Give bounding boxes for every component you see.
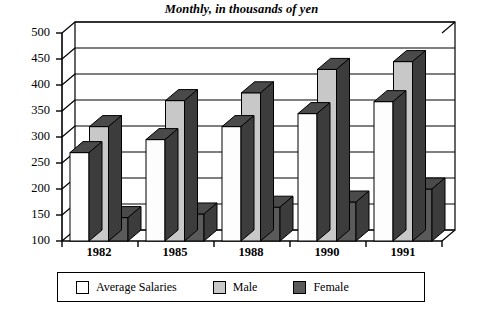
legend-label: Male	[233, 280, 258, 295]
chart-container: Monthly, in thousands of yen 10015020025…	[0, 0, 483, 313]
x-axis-tick-1988: 1988	[227, 245, 275, 260]
legend-label: Average Salaries	[96, 280, 177, 295]
y-axis-tick-400: 400	[16, 78, 50, 90]
legend-item-average-salaries[interactable]: Average Salaries	[76, 280, 177, 295]
legend-swatch-icon	[213, 281, 226, 294]
y-axis-tick-300: 300	[16, 130, 50, 142]
legend-item-female[interactable]: Female	[293, 280, 348, 295]
x-axis-tick-1985: 1985	[151, 245, 199, 260]
y-axis-tick-250: 250	[16, 156, 50, 168]
legend-item-male[interactable]: Male	[213, 280, 258, 295]
y-axis-tick-100: 100	[16, 234, 50, 246]
chart-plot-area	[0, 0, 483, 270]
y-axis-tick-200: 200	[16, 182, 50, 194]
legend-swatch-icon	[76, 281, 89, 294]
y-axis-tick-350: 350	[16, 104, 50, 116]
x-axis-tick-1991: 1991	[379, 245, 427, 260]
x-axis-tick-1982: 1982	[75, 245, 123, 260]
legend-swatch-icon	[293, 281, 306, 294]
y-axis-tick-150: 150	[16, 208, 50, 220]
x-axis-tick-1990: 1990	[303, 245, 351, 260]
y-axis-tick-500: 500	[16, 26, 50, 38]
chart-legend: Average SalariesMaleFemale	[57, 272, 425, 302]
legend-label: Female	[313, 280, 348, 295]
y-axis-tick-450: 450	[16, 52, 50, 64]
